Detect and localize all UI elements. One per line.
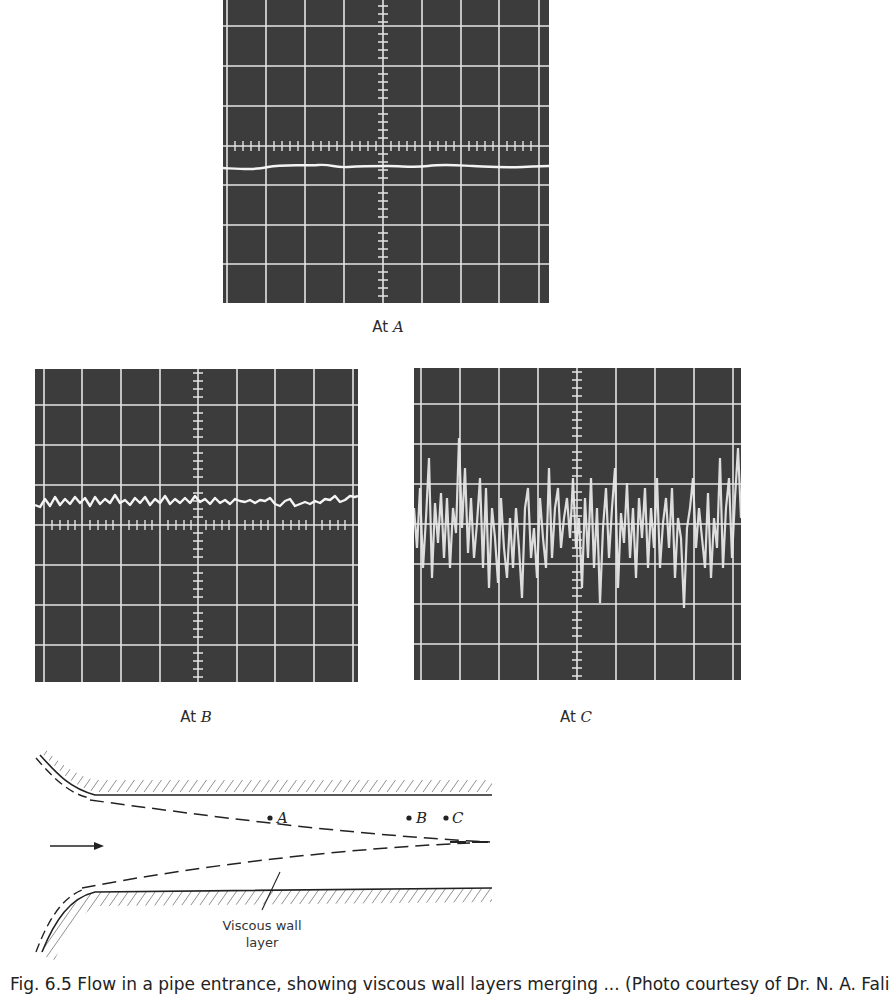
oscilloscope-panel-a	[223, 0, 549, 303]
oscilloscope-panel-c	[414, 368, 741, 680]
scope-c-graphic	[414, 368, 741, 680]
label-prefix: At	[560, 708, 576, 726]
upper-boundary-layer-edge	[90, 800, 490, 842]
point-c: C	[443, 809, 464, 827]
label-var: A	[393, 318, 404, 336]
viscous-wall-label-line2: layer	[246, 935, 279, 950]
label-prefix: At	[372, 318, 388, 336]
panel-a-label: At A	[348, 318, 428, 336]
point-a-label: A	[275, 809, 288, 827]
label-var: B	[201, 708, 212, 726]
channel-entrance-diagram: A B C Viscous wall layer	[0, 740, 765, 965]
panel-c-label: At C	[536, 708, 616, 726]
oscilloscope-panel-b	[35, 369, 358, 682]
point-a: A	[267, 809, 288, 827]
label-prefix: At	[180, 708, 196, 726]
scope-b-graphic	[35, 369, 358, 682]
flow-arrow-icon	[50, 842, 104, 850]
point-b-label: B	[415, 809, 427, 827]
scope-a-graphic	[223, 0, 549, 303]
trace-a	[223, 165, 549, 169]
point-b: B	[406, 809, 427, 827]
figure-caption: Fig. 6.5 Flow in a pipe entrance, showin…	[10, 974, 889, 994]
label-var: C	[581, 708, 592, 726]
panel-b-label: At B	[156, 708, 236, 726]
top-wall	[36, 748, 492, 798]
viscous-wall-label: Viscous wall	[222, 918, 301, 933]
point-c-label: C	[452, 809, 464, 827]
channel-diagram-graphic: A B C Viscous wall layer	[0, 740, 765, 965]
